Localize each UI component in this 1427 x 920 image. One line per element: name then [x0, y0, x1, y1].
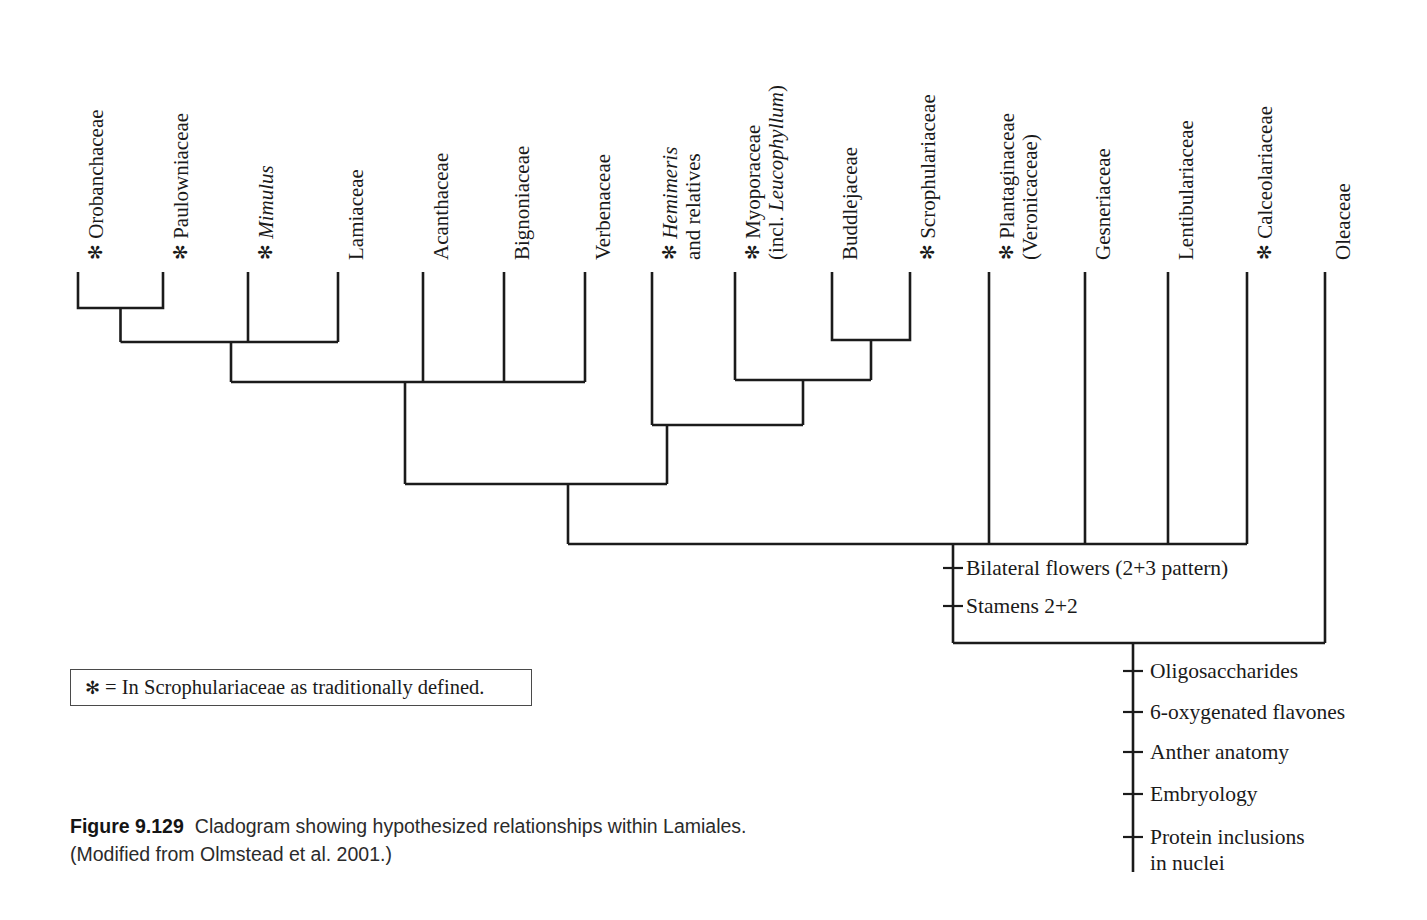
character-oxygenated-flavones: 6-oxygenated flavones [1150, 699, 1345, 725]
taxon-name-line2: (Veronicaceae) [1020, 134, 1041, 260]
cladogram-figure: ✻ Orobanchaceae ✻ Paulowniaceae ✻ Mimulu… [0, 0, 1427, 920]
taxon-name: Bignoniaceae [510, 146, 534, 260]
taxon-name: Verbenaceae [591, 154, 615, 260]
taxon-label-hemimeris: ✻ Hemimeris and relatives [660, 147, 681, 260]
taxon-name-line2: (incl. Leucophyllum) [766, 85, 787, 260]
branch-orobanchaceae-paulowniaceae [78, 272, 163, 308]
taxon-name: Orobanchaceae [84, 109, 108, 238]
taxon-label-bignoniaceae: Bignoniaceae [512, 146, 533, 260]
taxon-name: Calceolariaceae [1253, 106, 1277, 239]
taxon-label-oleaceae: Oleaceae [1333, 183, 1354, 260]
figure-caption-text: Cladogram showing hypothesized relations… [195, 815, 747, 837]
character-protein-inclusions: Protein inclusions in nuclei [1150, 824, 1305, 876]
legend-text: = In Scrophulariaceae as traditionally d… [105, 676, 484, 699]
taxon-name: Acanthaceae [429, 153, 453, 260]
scroph-star-icon: ✻ [169, 244, 191, 260]
scroph-star-icon: ✻ [658, 244, 680, 260]
character-bilateral-flowers: Bilateral flowers (2+3 pattern) [966, 555, 1228, 581]
character-stamens: Stamens 2+2 [966, 593, 1078, 619]
figure-caption: Figure 9.129Cladogram showing hypothesiz… [70, 812, 790, 868]
taxon-name: Myoporaceae [741, 125, 765, 239]
figure-number: Figure 9.129 [70, 815, 184, 837]
taxon-label-lamiaceae: Lamiaceae [346, 169, 367, 260]
taxon-label-orobanchaceae: ✻ Orobanchaceae [86, 109, 107, 260]
taxon-label-gesneriaceae: Gesneriaceae [1093, 148, 1114, 260]
scroph-star-icon: ✻ [916, 244, 938, 260]
taxon-name: Gesneriaceae [1091, 148, 1115, 260]
scroph-star-icon: ✻ [995, 244, 1017, 260]
taxon-name: Lamiaceae [344, 169, 368, 260]
scroph-star-icon: ✻ [85, 677, 100, 698]
taxon-name: Paulowniaceae [169, 113, 193, 239]
taxon-label-paulowniaceae: ✻ Paulowniaceae [171, 113, 192, 260]
taxon-name: Buddlejaceae [838, 147, 862, 260]
taxon-label-acanthaceae: Acanthaceae [431, 153, 452, 260]
taxon-label-lentibulariaceae: Lentibulariaceae [1176, 120, 1197, 260]
character-protein-inclusions-line2: in nuclei [1150, 851, 1225, 875]
taxon-label-buddlejaceae: Buddlejaceae [840, 147, 861, 260]
branch-buddlejaceae-scrophulariaceae [832, 272, 910, 340]
taxon-name: Oleaceae [1331, 183, 1355, 260]
taxon-name: Lentibulariaceae [1174, 120, 1198, 260]
taxon-label-calceolariaceae: ✻ Calceolariaceae [1255, 106, 1276, 260]
scroph-star-icon: ✻ [1253, 244, 1275, 260]
character-protein-inclusions-line1: Protein inclusions [1150, 825, 1305, 849]
character-embryology: Embryology [1150, 781, 1258, 807]
taxon-label-scrophulariaceae: ✻ Scrophulariaceae [918, 94, 939, 260]
taxon-genus: Leucophyllum [764, 92, 788, 211]
legend-box: ✻ = In Scrophulariaceae as traditionally… [70, 669, 532, 706]
taxon-label-verbenaceae: Verbenaceae [593, 154, 614, 260]
taxon-label-plantaginaceae: ✻ Plantaginaceae (Veronicaceae) [997, 113, 1018, 260]
character-anther-anatomy: Anther anatomy [1150, 739, 1289, 765]
taxon-name: Mimulus [254, 165, 278, 239]
scroph-star-icon: ✻ [254, 244, 276, 260]
character-oligosaccharides: Oligosaccharides [1150, 658, 1298, 684]
scroph-star-icon: ✻ [741, 244, 763, 260]
scroph-star-icon: ✻ [84, 244, 106, 260]
taxon-label-mimulus: ✻ Mimulus [256, 165, 277, 260]
figure-source: (Modified from Olmstead et al. 2001.) [70, 843, 392, 865]
taxon-label-myoporaceae: ✻ Myoporaceae (incl. Leucophyllum) [743, 125, 764, 260]
taxon-name: Plantaginaceae [995, 113, 1019, 239]
taxon-name: Scrophulariaceae [916, 94, 940, 239]
taxon-name: Hemimeris [658, 147, 682, 239]
taxon-name-line2: and relatives [683, 153, 704, 260]
